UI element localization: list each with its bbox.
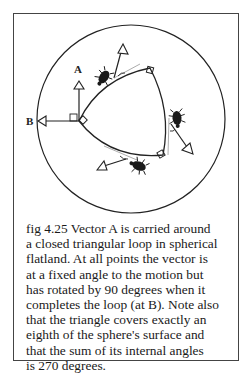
caption-line: flatland. At all points the vector is xyxy=(26,251,241,266)
caption-line: fig 4.25 Vector A is carried around xyxy=(26,221,241,236)
beetle-icon xyxy=(92,65,116,90)
caption-line: has rotated by 90 degrees when it xyxy=(26,282,241,297)
arrowhead xyxy=(118,44,128,54)
caption-line: eighth of the sphere's surface and xyxy=(26,327,241,342)
vector-a-arrowhead xyxy=(74,81,84,89)
spherical-triangle xyxy=(79,68,166,156)
arrowhead xyxy=(97,161,107,170)
vector-a-label: A xyxy=(74,63,82,75)
beetle-icon xyxy=(127,155,150,177)
caption-line: that the sum of its internal angles xyxy=(26,343,241,358)
caption-line: completes the loop (at B). Note also xyxy=(26,297,241,312)
vector-b-label: B xyxy=(26,115,34,127)
figure-caption: fig 4.25 Vector A is carried around a cl… xyxy=(26,221,241,373)
vector-b-arrowhead xyxy=(38,116,46,126)
caption-line: a closed triangular loop in spherical xyxy=(26,236,241,251)
caption-line: at a fixed angle to the motion but xyxy=(26,267,241,282)
caption-line: that the triangle covers exactly an xyxy=(26,312,241,327)
beetle-icon xyxy=(168,108,186,128)
caption-line: is 270 degrees. xyxy=(26,358,241,373)
arrowhead xyxy=(182,143,193,154)
sphere-circle xyxy=(37,25,225,213)
right-angle-marker xyxy=(70,114,77,121)
